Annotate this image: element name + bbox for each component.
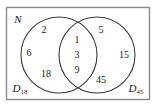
intersection-member-9: 9 <box>75 65 80 75</box>
right-set-label: D45 <box>129 83 144 96</box>
left-only-member-6: 6 <box>27 48 32 58</box>
right-only-member-15: 15 <box>119 50 129 60</box>
left-set-label: D18 <box>13 83 28 96</box>
left-set-label-base: D <box>13 82 21 94</box>
right-set-label-subscript: 45 <box>136 88 143 96</box>
left-set-label-subscript: 18 <box>20 88 27 96</box>
right-only-member-5: 5 <box>99 25 104 35</box>
right-only-member-45: 45 <box>96 75 106 85</box>
left-only-member-2: 2 <box>42 25 47 35</box>
intersection-member-1: 1 <box>75 35 80 45</box>
universal-set-label: N <box>14 14 21 25</box>
intersection-member-3: 3 <box>75 50 80 60</box>
left-only-member-18: 18 <box>41 69 51 79</box>
venn-diagram-figure: N D18 D45 2 6 18 1 3 9 5 15 45 <box>0 0 156 107</box>
right-set-label-base: D <box>129 82 137 94</box>
